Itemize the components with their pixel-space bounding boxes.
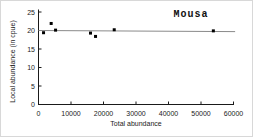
data-point [50, 22, 53, 25]
y-tick-label: 20 [27, 27, 35, 34]
x-tick-label: 0 [37, 110, 41, 117]
scatter-chart-figure: 0100002000030000400005000060000051015202… [0, 0, 253, 137]
plot-area: 0100002000030000400005000060000051015202… [1, 1, 253, 137]
x-tick-label: 50000 [191, 110, 211, 117]
trend-line [39, 31, 236, 32]
y-axis-label: Local abundance (in cpue) [9, 13, 18, 111]
y-tick-label: 0 [31, 101, 35, 108]
y-tick-label: 5 [31, 83, 35, 90]
x-tick-label: 10000 [61, 110, 81, 117]
x-tick-label: 20000 [94, 110, 114, 117]
data-point [89, 32, 92, 35]
data-point [212, 29, 215, 32]
x-axis-label: Total abundance [38, 120, 234, 127]
series-annotation-mousa: Mousa [167, 9, 215, 20]
y-tick-label: 15 [27, 46, 35, 53]
data-point [113, 28, 116, 31]
data-point [54, 29, 57, 32]
data-point [94, 35, 97, 38]
x-tick-label: 40000 [159, 110, 179, 117]
y-tick-label: 25 [27, 9, 35, 16]
x-tick-label: 60000 [224, 110, 244, 117]
data-point [42, 31, 45, 34]
y-tick-label: 10 [27, 64, 35, 71]
x-tick-label: 30000 [126, 110, 146, 117]
